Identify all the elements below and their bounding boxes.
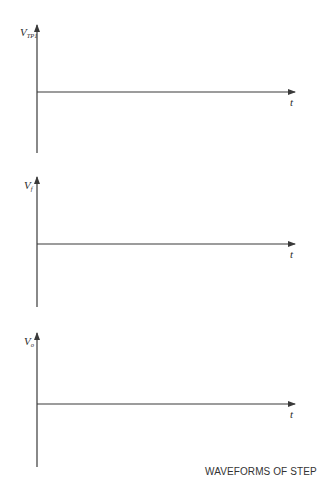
y-axis-label-vo: Vo: [24, 336, 34, 349]
x-axis-label-t: t: [290, 249, 293, 260]
x-axis-label-t: t: [290, 409, 293, 420]
y-label-main: V: [24, 335, 31, 347]
y-axis-label-vf: Vf: [24, 180, 33, 193]
y-label-sub: o: [31, 341, 34, 348]
y-label-main: V: [24, 179, 31, 191]
y-label-sub: TP1: [27, 32, 38, 39]
plot-vo: [37, 333, 295, 467]
plot-vtp1: [37, 25, 295, 153]
figure-caption: WAVEFORMS OF STEP 6: [205, 466, 319, 477]
y-label-sub: f: [31, 185, 33, 192]
waveform-axes: [0, 0, 319, 498]
x-axis-label-t: t: [290, 97, 293, 108]
y-axis-label-vtp1: VTP1: [20, 27, 38, 40]
plot-vf: [37, 177, 295, 307]
y-label-main: V: [20, 26, 27, 38]
